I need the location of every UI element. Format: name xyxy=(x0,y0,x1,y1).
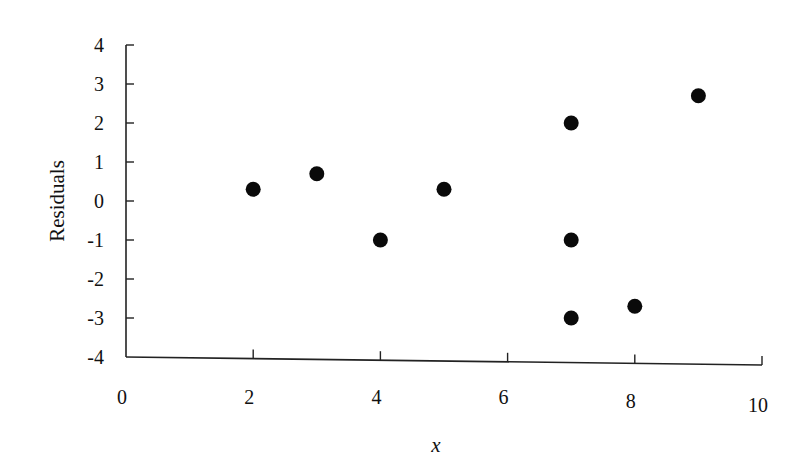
data-point xyxy=(564,311,579,326)
x-tick-label: 4 xyxy=(371,386,381,408)
y-axis-title: Residuals xyxy=(45,160,69,242)
y-tick-label: -3 xyxy=(87,307,104,329)
y-tick-label: 3 xyxy=(94,73,104,95)
x-tick-label: 2 xyxy=(244,386,254,408)
y-tick-label: -1 xyxy=(87,229,104,251)
y-tick-label: -2 xyxy=(87,268,104,290)
x-tick-label: 6 xyxy=(499,386,509,408)
x-tick-label: 0 xyxy=(117,386,127,408)
y-axis: 43210-1-2-3-4 xyxy=(87,34,134,368)
x-axis-line xyxy=(126,357,762,365)
x-tick-label: 8 xyxy=(626,390,636,412)
data-point xyxy=(691,88,706,103)
data-point xyxy=(564,233,579,248)
data-point xyxy=(437,182,452,197)
x-tick-label: 10 xyxy=(748,394,768,416)
y-tick-label: 2 xyxy=(94,112,104,134)
data-point xyxy=(309,166,324,181)
y-tick-label: 0 xyxy=(94,190,104,212)
y-tick-label: 1 xyxy=(94,151,104,173)
y-tick-label: 4 xyxy=(94,34,104,56)
data-point xyxy=(373,233,388,248)
data-point xyxy=(627,299,642,314)
x-axis-title: x xyxy=(430,433,441,457)
data-point xyxy=(564,116,579,131)
x-axis: 0246810 xyxy=(117,350,768,416)
y-tick-label: -4 xyxy=(87,346,104,368)
data-point xyxy=(246,182,261,197)
data-points xyxy=(246,88,706,325)
residual-scatter-plot: 43210-1-2-3-4 0246810 Residuals x xyxy=(0,0,804,470)
